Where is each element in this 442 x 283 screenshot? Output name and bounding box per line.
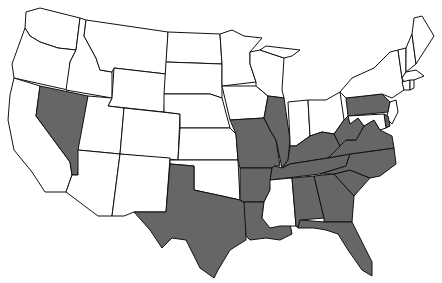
state-ND[interactable]: North Dakota bbox=[166, 32, 222, 64]
state-IA[interactable]: Iowa bbox=[222, 86, 268, 120]
state-NY[interactable]: New York bbox=[340, 50, 404, 98]
state-SD[interactable]: South Dakota bbox=[164, 62, 222, 98]
state-RI[interactable]: Rhode Island bbox=[410, 80, 414, 90]
state-CO[interactable]: Colorado bbox=[120, 108, 180, 160]
state-WY[interactable]: Wyoming bbox=[108, 68, 166, 112]
state-KS[interactable]: Kansas bbox=[178, 128, 238, 160]
state-NM[interactable]: New Mexico bbox=[112, 154, 170, 216]
us-map: Washington Oregon California Idaho Nevad… bbox=[0, 0, 442, 283]
state-ME[interactable]: Maine bbox=[412, 16, 434, 64]
state-CT[interactable]: Connecticut bbox=[402, 80, 410, 90]
state-FL[interactable]: Florida bbox=[298, 220, 372, 276]
